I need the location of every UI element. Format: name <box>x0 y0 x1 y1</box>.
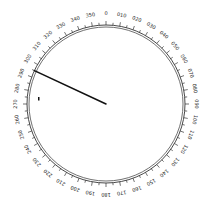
minor-tick <box>59 169 60 171</box>
major-tick <box>157 165 160 168</box>
major-tick <box>180 76 184 77</box>
minor-tick <box>178 70 180 71</box>
bearing-label: 300 <box>23 53 33 64</box>
bearing-label: 290 <box>16 67 25 78</box>
bearing-label: 240 <box>23 144 33 155</box>
bearing-label: 310 <box>31 40 42 51</box>
minor-tick <box>48 160 50 162</box>
major-tick <box>42 155 45 158</box>
bearing-label: 170 <box>117 189 127 197</box>
minor-tick <box>126 25 127 27</box>
bearing-label: 110 <box>187 129 196 140</box>
bearing-label: 010 <box>117 11 127 19</box>
bearing-label: 100 <box>191 115 199 125</box>
bearing-label: 210 <box>55 177 66 187</box>
minor-tick <box>85 25 86 27</box>
major-tick <box>92 22 93 26</box>
major-tick <box>24 118 28 119</box>
minor-tick <box>151 37 152 39</box>
bearing-label: 350 <box>85 11 95 19</box>
bearing-label: 060 <box>179 53 189 64</box>
major-tick <box>53 40 56 43</box>
major-tick <box>28 131 32 132</box>
bearing-label: 070 <box>187 67 196 78</box>
minor-tick <box>32 137 34 138</box>
minor-tick <box>27 83 29 84</box>
major-tick <box>24 90 28 91</box>
minor-tick <box>39 57 41 58</box>
bearing-label: 0 <box>104 10 107 16</box>
major-tick <box>184 118 188 119</box>
major-tick <box>167 51 170 54</box>
major-tick <box>157 40 160 43</box>
major-tick <box>92 182 93 186</box>
compass-svg: 0010020030040050060070080090100110120130… <box>0 0 209 208</box>
bearing-label: 150 <box>146 177 157 187</box>
bearing-label: 050 <box>170 40 181 51</box>
bearing-label: 270 <box>12 99 18 109</box>
minor-tick <box>139 176 140 178</box>
major-tick <box>180 131 184 132</box>
major-tick <box>120 22 121 26</box>
minor-tick <box>162 160 164 162</box>
minor-tick <box>162 46 164 48</box>
minor-tick <box>48 46 50 48</box>
minor-tick <box>139 30 140 32</box>
major-tick <box>146 172 148 175</box>
major-tick <box>53 165 56 168</box>
major-tick <box>120 182 121 186</box>
major-tick <box>28 76 32 77</box>
bearing-label: 140 <box>159 168 170 179</box>
minor-tick <box>182 83 184 84</box>
minor-tick <box>85 180 86 182</box>
bearing-label: 160 <box>131 185 142 194</box>
bearing-label: 080 <box>191 83 199 93</box>
bearing-label: 180 <box>101 192 111 198</box>
major-tick <box>34 144 37 146</box>
bearing-label: 200 <box>69 185 80 194</box>
minor-tick <box>126 180 127 182</box>
minor-tick <box>171 57 173 58</box>
minor-tick <box>72 176 73 178</box>
major-tick <box>146 32 148 35</box>
major-tick <box>133 178 134 182</box>
minor-tick <box>39 149 41 150</box>
bearing-label: 020 <box>131 14 142 23</box>
small-marker <box>38 97 40 101</box>
bearing-label: 040 <box>159 29 170 40</box>
major-tick <box>78 178 79 182</box>
minor-tick <box>178 137 180 138</box>
bearing-label: 320 <box>42 29 53 40</box>
minor-tick <box>151 169 152 171</box>
minor-tick <box>59 37 60 39</box>
bearing-label: 220 <box>42 168 53 179</box>
minor-tick <box>182 124 184 125</box>
major-tick <box>65 172 67 175</box>
bearing-label: 230 <box>31 157 42 168</box>
minor-tick <box>72 30 73 32</box>
major-tick <box>174 63 177 65</box>
major-tick <box>65 32 67 35</box>
bearing-label: 330 <box>55 21 66 31</box>
minor-tick <box>27 124 29 125</box>
major-tick <box>78 26 79 30</box>
bearing-needle[interactable] <box>34 71 106 104</box>
minor-tick <box>171 149 173 150</box>
major-tick <box>184 90 188 91</box>
bearing-label: 190 <box>85 189 95 197</box>
major-tick <box>174 144 177 146</box>
bearing-label: 260 <box>13 115 21 125</box>
bearing-label: 090 <box>194 99 200 109</box>
compass-dial: 0010020030040050060070080090100110120130… <box>0 0 209 208</box>
major-tick <box>133 26 134 30</box>
bearing-label: 340 <box>69 14 80 23</box>
major-tick <box>42 51 45 54</box>
bearing-label: 120 <box>179 144 189 155</box>
bearing-label: 280 <box>13 83 21 93</box>
major-tick <box>167 155 170 158</box>
major-tick <box>34 63 37 65</box>
bearing-label: 250 <box>16 129 25 140</box>
bearing-label: 030 <box>146 21 157 31</box>
bearing-label: 130 <box>170 157 181 168</box>
